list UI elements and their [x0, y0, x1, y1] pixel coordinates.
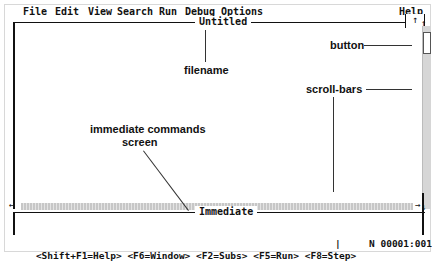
menu-run[interactable]: Run: [159, 7, 177, 17]
annotation-immediate-line2: screen: [122, 136, 157, 148]
scroll-right-arrow-icon[interactable]: →: [415, 201, 420, 210]
annotation-line-button: [364, 45, 412, 46]
window-right-border: [422, 193, 424, 235]
annotation-filename: filename: [184, 64, 229, 76]
qbasic-screen: File Edit View Search Run Debug Options …: [4, 4, 431, 252]
status-separator: |: [335, 238, 341, 250]
status-bar: <Shift+F1=Help> <F6=Window> <F2=Subs> <F…: [13, 238, 429, 250]
immediate-window[interactable]: Immediate: [13, 212, 425, 235]
menu-search[interactable]: Search: [117, 7, 153, 17]
scroll-left-arrow-icon[interactable]: ←: [9, 201, 14, 210]
editor-title-filename: Untitled: [195, 16, 251, 28]
vertical-scrollbar[interactable]: [422, 26, 431, 209]
immediate-title: Immediate: [195, 206, 257, 218]
annotation-button: button: [330, 39, 364, 51]
status-key-hints: <Shift+F1=Help> <F6=Window> <F2=Subs> <F…: [36, 250, 356, 261]
cursor-position: N 00001:001: [369, 238, 432, 250]
annotation-scroll-bars: scroll-bars: [306, 83, 362, 95]
vertical-scroll-thumb[interactable]: [423, 32, 431, 54]
annotation-line-filename: [205, 30, 206, 62]
annotation-immediate-line1: immediate commands: [90, 123, 206, 135]
annotation-line-vscroll: [366, 89, 412, 90]
menu-file[interactable]: File: [23, 7, 47, 17]
annotation-line-hscroll: [333, 97, 334, 192]
menu-edit[interactable]: Edit: [55, 7, 79, 17]
menu-view[interactable]: View: [88, 7, 112, 17]
